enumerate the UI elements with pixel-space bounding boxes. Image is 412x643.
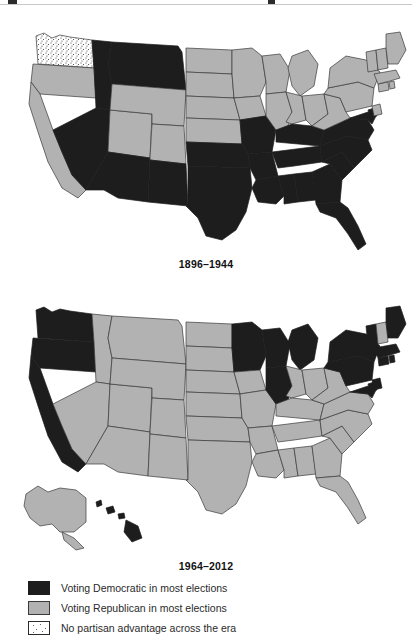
state-nm <box>148 160 188 206</box>
legend-label-republican: Voting Republican in most elections <box>61 603 227 614</box>
state-co <box>150 398 186 438</box>
state-mt <box>108 316 186 364</box>
state-wa <box>36 307 94 342</box>
state-nj <box>372 378 382 390</box>
state-wa <box>36 33 94 68</box>
state-nj <box>372 104 382 116</box>
state-mn <box>232 48 266 98</box>
us-map-svg-1896 <box>0 12 412 260</box>
state-nd <box>186 322 232 348</box>
legend-swatch-democratic-icon <box>28 581 50 595</box>
state-ri <box>389 81 395 89</box>
state-or <box>31 64 96 98</box>
state-id <box>92 314 112 384</box>
us-map-svg-1964 <box>0 286 412 556</box>
legend-item-no-advantage: No partisan advantage across the era <box>28 618 388 638</box>
map-1964-2012 <box>0 286 412 556</box>
state-ok <box>186 416 250 442</box>
state-tn <box>272 146 322 168</box>
legend: Voting Democratic in most elections Voti… <box>28 578 388 638</box>
state-or <box>31 338 96 372</box>
state-sd <box>186 72 234 98</box>
figure-page: 1896–1944 <box>0 0 412 643</box>
legend-swatch-no-advantage-icon <box>28 621 50 635</box>
state-ks <box>186 392 242 418</box>
state-ut <box>108 384 152 432</box>
state-wi <box>262 54 290 94</box>
state-fl <box>316 202 366 250</box>
legend-item-democratic: Voting Democratic in most elections <box>28 578 388 598</box>
state-mi <box>288 50 318 96</box>
state-nd <box>186 48 232 74</box>
state-id <box>92 40 112 110</box>
state-ok <box>186 142 250 168</box>
state-me <box>386 32 406 64</box>
state-ut <box>108 110 152 158</box>
state-nm <box>148 434 188 480</box>
state-tx <box>186 440 252 514</box>
legend-label-no-advantage: No partisan advantage across the era <box>61 623 236 634</box>
page-top-rule <box>0 4 412 5</box>
state-fl <box>316 476 366 524</box>
state-mn <box>232 322 266 372</box>
state-mt <box>108 42 186 90</box>
state-hi <box>96 500 142 542</box>
state-tn <box>272 420 322 442</box>
state-wi <box>262 328 290 368</box>
state-ri <box>389 355 395 363</box>
legend-label-democratic: Voting Democratic in most elections <box>61 583 227 594</box>
legend-item-republican: Voting Republican in most elections <box>28 598 388 618</box>
state-me <box>386 306 406 338</box>
state-co <box>150 124 186 164</box>
legend-swatch-republican-icon <box>28 601 50 615</box>
state-sd <box>186 346 234 372</box>
state-tx <box>186 166 252 240</box>
state-ne <box>186 370 240 394</box>
map-1896-caption: 1896–1944 <box>0 258 412 270</box>
state-mi <box>288 324 318 370</box>
map-1964-caption: 1964–2012 <box>0 560 412 572</box>
map-1896-1944 <box>0 12 412 260</box>
state-ne <box>186 96 240 120</box>
state-ks <box>186 118 242 144</box>
state-ak <box>24 486 86 550</box>
